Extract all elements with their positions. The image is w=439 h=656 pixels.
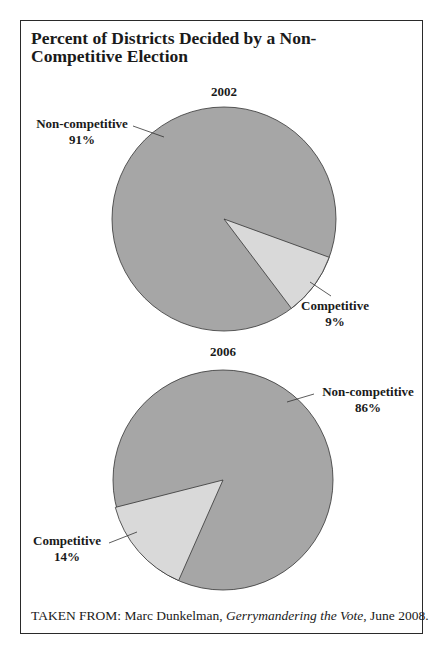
label-2002-competitive: Competitive 9% xyxy=(298,298,372,330)
year-label-2002: 2002 xyxy=(194,84,254,100)
year-label-2006: 2006 xyxy=(193,344,253,360)
label-2006-non-competitive: Non-competitive 86% xyxy=(316,384,420,416)
source-title: Gerrymandering the Vote xyxy=(226,608,363,623)
label-2006-competitive: Competitive 14% xyxy=(30,533,104,565)
label-2002-non-competitive: Non-competitive 91% xyxy=(30,116,134,148)
leader-line xyxy=(310,282,331,296)
pie-2006 xyxy=(109,370,333,590)
source-citation: TAKEN FROM: Marc Dunkelman, Gerrymanderi… xyxy=(31,608,429,624)
